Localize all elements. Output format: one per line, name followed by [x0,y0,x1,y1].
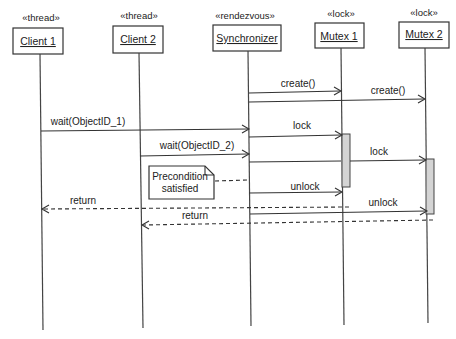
message-label: lock [293,120,312,131]
participant-name: Client 2 [120,33,156,45]
message-wait-objectid-2: wait(ObjectID_2) [140,140,249,158]
message-label: return [70,195,96,206]
participant-mutex-2: «lock» Mutex 2 [399,7,449,48]
participant-name: Mutex 2 [405,28,443,40]
participant-name: Synchronizer [216,32,278,44]
lifeline-client-1 [40,54,43,330]
stereotype-label: «thread» [120,10,158,21]
stereotype-label: «rendezvous» [215,10,275,21]
message-label: return [182,210,208,221]
stereotype-label: «lock» [410,7,437,18]
message-label: create() [371,85,405,96]
message-unlock-mutex-1: unlock [249,181,342,196]
note-anchor-line [215,180,248,181]
activation-bar-mutex-1 [342,134,350,187]
note-line-1: Precondition [152,171,208,182]
note-line-2: satisfied [162,183,199,194]
sequence-diagram: «thread» Client 1 «thread» Client 2 «ren… [0,0,456,339]
participant-synchronizer: «rendezvous» Synchronizer [213,10,281,51]
participant-client-2: «thread» Client 2 [113,10,163,53]
lifeline-synchronizer [248,51,251,326]
participant-mutex-1: «lock» Mutex 1 [315,8,364,48]
message-lock-mutex-2: lock [249,146,426,164]
participant-name: Client 1 [20,35,56,47]
message-lock-mutex-1: lock [249,120,342,139]
lifeline-client-2 [139,53,143,328]
message-label: lock [370,146,389,157]
message-label: unlock [291,181,321,192]
message-create-mutex-1: create() [249,78,341,95]
message-create-mutex-2: create() [249,85,425,103]
message-label: create() [281,78,315,89]
participant-name: Mutex 1 [320,30,358,42]
message-unlock-mutex-2: unlock [250,197,427,215]
activation-bar-mutex-2 [426,159,434,214]
message-label: wait(ObjectID_1) [50,116,125,127]
note-precondition-satisfied: Precondition satisfied [149,166,248,199]
stereotype-label: «thread» [22,12,60,23]
stereotype-label: «lock» [327,8,354,19]
participant-client-1: «thread» Client 1 [13,12,63,54]
message-label: wait(ObjectID_2) [159,140,234,151]
message-label: unlock [369,197,399,208]
message-wait-objectid-1: wait(ObjectID_1) [41,116,249,133]
